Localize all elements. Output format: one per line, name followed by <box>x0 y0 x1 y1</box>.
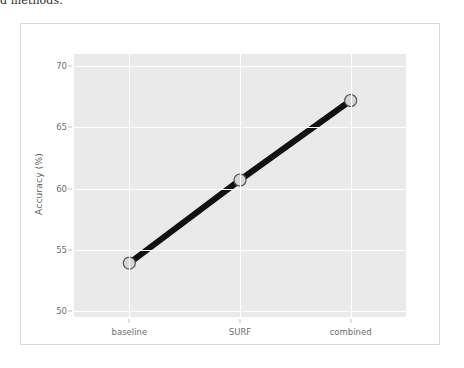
y-tick-mark <box>68 188 72 189</box>
gridline-vertical <box>129 54 130 317</box>
x-tick-mark <box>129 319 130 323</box>
y-tick-mark <box>68 66 72 67</box>
y-axis-title: Accuracy (%) <box>34 153 44 215</box>
y-tick-label: 55 <box>56 245 67 254</box>
y-tick-label: 70 <box>56 62 67 71</box>
y-tick-label: 60 <box>56 184 67 193</box>
y-tick-mark <box>68 310 72 311</box>
y-tick-label: 50 <box>56 307 67 316</box>
x-tick-mark <box>350 319 351 323</box>
x-tick-label: combined <box>330 328 372 337</box>
y-tick-label: 65 <box>56 123 67 132</box>
y-tick-mark <box>68 249 72 250</box>
plot-area: 5055606570baselineSURFcombined <box>74 54 406 317</box>
page-top-text-fragment: d methods. <box>0 0 120 6</box>
x-tick-label: baseline <box>112 328 148 337</box>
gridline-vertical <box>351 54 352 317</box>
y-tick-mark <box>68 127 72 128</box>
gridline-vertical <box>240 54 241 317</box>
x-tick-mark <box>240 319 241 323</box>
figure-card: Accuracy (%) 5055606570baselineSURFcombi… <box>20 23 440 345</box>
x-tick-label: SURF <box>229 328 251 337</box>
